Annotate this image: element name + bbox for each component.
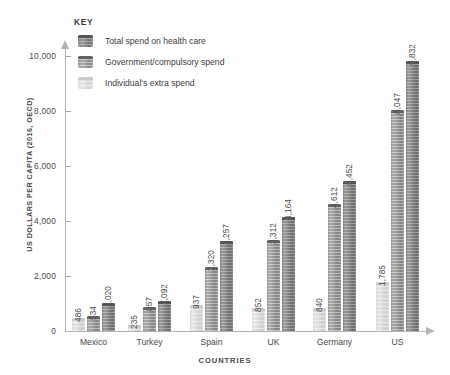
bar-value-label: 2,320 [207, 250, 216, 271]
bar-body [391, 110, 404, 331]
bar-body [282, 217, 295, 332]
bar-value-label: 840 [315, 298, 324, 312]
y-axis-tick-mark [66, 56, 71, 57]
bar-value-label: 1,092 [160, 284, 169, 305]
legend-swatch [78, 35, 93, 47]
bar-value-label: 857 [145, 297, 154, 311]
y-axis-tick-label: 4,000 [0, 216, 56, 226]
bar-value-label: 1,020 [104, 286, 113, 307]
bar-value-label: 4,612 [330, 187, 339, 208]
y-axis-tick-label: 8,000 [0, 106, 56, 116]
bar-body [102, 303, 115, 331]
x-axis-line [65, 331, 427, 332]
bar-value-label: 1,785 [378, 265, 387, 286]
y-axis-arrow [61, 40, 69, 49]
bar-value-label: 534 [89, 306, 98, 320]
bar-body [190, 305, 203, 331]
bar [282, 217, 295, 332]
y-axis-tick-mark [66, 166, 71, 167]
bar-value-label: 9,832 [408, 44, 417, 65]
bar-value-label: 3,257 [222, 224, 231, 245]
y-axis-tick-label: 0 [0, 326, 56, 336]
bar-value-label: 235 [130, 315, 139, 329]
y-axis-tick-label: 2,000 [0, 271, 56, 281]
bar-value-label: 8,047 [393, 93, 402, 114]
legend-swatch-cap [78, 77, 93, 80]
bar [406, 61, 419, 331]
legend-label: Total spend on health care [105, 36, 206, 46]
bar-chart: US DOLLARS PER CAPITA (2016, OECD) 02,00… [0, 0, 450, 375]
bar-body [343, 181, 356, 331]
bar-value-label: 5,452 [345, 164, 354, 185]
bar [220, 241, 233, 331]
bar-value-label: 852 [254, 298, 263, 312]
bar [190, 305, 203, 331]
legend-swatch-cap [78, 35, 93, 38]
legend-swatch [78, 56, 93, 68]
bar-value-label: 937 [192, 295, 201, 309]
bar-body [328, 204, 341, 331]
legend-label: Government/compulsory spend [105, 57, 224, 67]
bar-body [158, 301, 171, 331]
bar [343, 181, 356, 331]
bar-body [376, 282, 389, 331]
bar-value-label: 3,312 [269, 223, 278, 244]
bar [205, 267, 218, 331]
bar [158, 301, 171, 331]
bar-value-label: 4,164 [284, 199, 293, 220]
y-axis-tick-mark [66, 221, 71, 222]
bar-body [267, 240, 280, 331]
bar [267, 240, 280, 331]
x-axis-arrow [426, 327, 435, 335]
y-axis-tick-label: 10,000 [0, 51, 56, 61]
bar [376, 282, 389, 331]
legend-swatch-cap [78, 56, 93, 59]
bar-body [205, 267, 218, 331]
bar-body [220, 241, 233, 331]
bar [391, 110, 404, 331]
y-axis-title: US DOLLARS PER CAPITA (2016, OECD) [25, 50, 34, 300]
y-axis-tick-mark [66, 111, 71, 112]
x-axis-title: COUNTRIES [0, 356, 450, 365]
legend-swatch [78, 77, 93, 89]
bar-body [406, 61, 419, 331]
bar [102, 303, 115, 331]
legend-label: Individual's extra spend [105, 78, 195, 88]
y-axis-tick-mark [66, 276, 71, 277]
y-axis-line [65, 48, 66, 332]
bar [328, 204, 341, 331]
bar-value-label: 486 [74, 308, 83, 322]
x-axis-category-label: US [358, 337, 438, 347]
legend-title: KEY [74, 17, 93, 27]
y-axis-tick-label: 6,000 [0, 161, 56, 171]
